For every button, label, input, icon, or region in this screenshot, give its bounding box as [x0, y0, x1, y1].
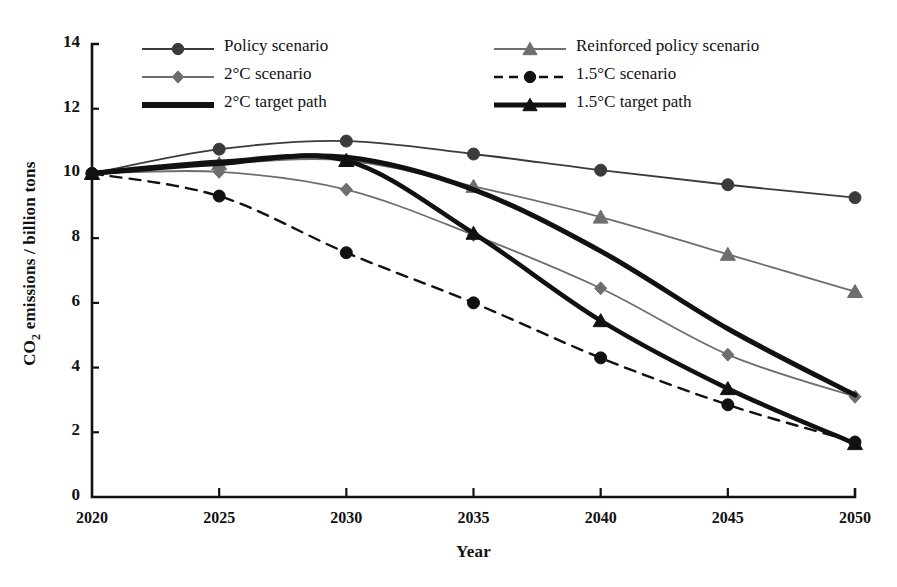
legend-swatch [140, 65, 216, 89]
data-point-circle [213, 190, 225, 202]
legend-swatch [140, 37, 216, 61]
data-point-diamond [595, 282, 607, 295]
legend-swatch [492, 65, 568, 89]
y-axis-title-subscript: 2 [29, 334, 43, 340]
x-tick-label: 2030 [311, 509, 381, 527]
plot-canvas [0, 0, 897, 587]
x-tick-label: 2020 [57, 509, 127, 527]
data-point-circle [468, 297, 480, 309]
data-point-diamond [172, 71, 183, 83]
data-point-triangle [720, 247, 735, 260]
legend-label: Policy scenario [224, 36, 328, 56]
x-axis-title: Year [92, 542, 855, 562]
y-tick-label: 8 [40, 226, 80, 246]
series-1-5-c-scenario [86, 167, 861, 448]
co2-emissions-scenarios-chart: CO2 emissions / billion tons Year 024681… [0, 0, 897, 587]
x-tick-label: 2025 [184, 509, 254, 527]
data-point-circle [849, 436, 861, 448]
y-tick-label: 0 [40, 485, 80, 505]
data-point-circle [595, 352, 607, 364]
y-tick-label: 14 [40, 32, 80, 52]
data-point-circle [849, 192, 861, 204]
x-tick-label: 2050 [820, 509, 890, 527]
data-point-circle [86, 167, 98, 179]
y-axis-title-main: CO [20, 340, 39, 366]
y-tick-label: 12 [40, 97, 80, 117]
y-axis-title: CO2 emissions / billion tons [20, 84, 43, 444]
legend-label: 2°C scenario [224, 64, 312, 84]
legend-label: 1.5°C scenario [576, 64, 676, 84]
data-point-circle [340, 247, 352, 259]
x-tick-label: 2040 [566, 509, 636, 527]
legend-swatch [492, 93, 568, 117]
series-2-c-scenario [86, 165, 861, 403]
x-tick-label: 2035 [439, 509, 509, 527]
legend-label: 1.5°C target path [576, 92, 692, 112]
data-point-circle [340, 135, 352, 147]
series-policy-scenario [86, 135, 861, 204]
data-point-circle [722, 399, 734, 411]
data-point-circle [595, 164, 607, 176]
data-point-circle [213, 143, 225, 155]
data-point-triangle [848, 285, 863, 298]
legend-label: 2°C target path [224, 92, 327, 112]
y-tick-label: 6 [40, 291, 80, 311]
series-line [92, 171, 855, 397]
x-tick-label: 2045 [693, 509, 763, 527]
data-point-circle [722, 179, 734, 191]
legend-swatch [492, 37, 568, 61]
data-point-circle [172, 43, 183, 54]
y-tick-label: 2 [40, 420, 80, 440]
y-tick-label: 4 [40, 356, 80, 376]
legend-swatch [140, 93, 216, 117]
data-point-circle [468, 148, 480, 160]
legend-label: Reinforced policy scenario [576, 36, 759, 56]
y-axis-title-rest: emissions / billion tons [20, 162, 39, 334]
data-point-diamond [340, 183, 352, 196]
y-tick-label: 10 [40, 161, 80, 181]
data-point-circle [524, 71, 535, 82]
data-point-diamond [722, 348, 734, 361]
